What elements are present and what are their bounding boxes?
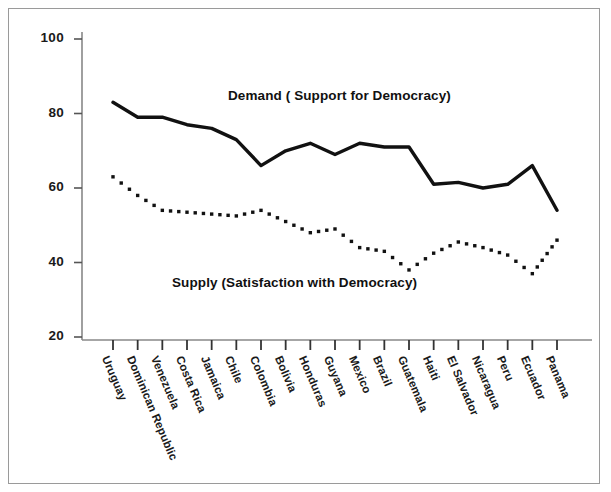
supply-dot (276, 216, 279, 219)
y-tick-label: 100 (18, 30, 64, 45)
axes (74, 32, 592, 350)
supply-dot (555, 238, 558, 241)
supply-dot (210, 212, 213, 215)
supply-dot (185, 211, 188, 214)
supply-dot (342, 233, 345, 236)
supply-dot (407, 268, 410, 271)
supply-dot (226, 214, 229, 217)
supply-dot (440, 248, 443, 251)
supply-dot (284, 220, 287, 223)
supply-dot (514, 260, 517, 263)
supply-dot (169, 209, 172, 212)
supply-dot (152, 204, 155, 207)
supply-dot (128, 188, 131, 191)
supply-dot (457, 240, 460, 243)
supply-dot (218, 213, 221, 216)
supply-dot (194, 211, 197, 214)
supply-dot (120, 181, 123, 184)
supply-dot (424, 257, 427, 260)
supply-dot (161, 209, 164, 212)
supply-dot (498, 251, 501, 254)
x-axis-ticks (113, 340, 557, 350)
demand-series-line (113, 102, 557, 210)
supply-dot (391, 256, 394, 259)
supply-dot (545, 252, 548, 255)
supply-dot (243, 212, 246, 215)
supply-dot (550, 245, 553, 248)
supply-dot (473, 244, 476, 247)
y-tick-label: 20 (18, 328, 64, 343)
supply-dot (111, 175, 114, 178)
y-tick-label: 40 (18, 254, 64, 269)
supply-dot (358, 246, 361, 249)
supply-dot (333, 227, 336, 230)
supply-dot (136, 194, 139, 197)
supply-dot (536, 265, 539, 268)
supply-dot (522, 266, 525, 269)
supply-dot (144, 199, 147, 202)
supply-dot (177, 210, 180, 213)
supply-dot (374, 248, 377, 251)
supply-dot (350, 240, 353, 243)
supply-dot (300, 227, 303, 230)
supply-dot (490, 248, 493, 251)
supply-dot (383, 250, 386, 253)
supply-dot (309, 231, 312, 234)
supply-dot (366, 247, 369, 250)
y-tick-label: 60 (18, 179, 64, 194)
chart-plot-area (0, 0, 611, 492)
chart-figure: 10080604020 UruguayDominican RepublicVen… (0, 0, 611, 492)
y-tick-label: 80 (18, 105, 64, 120)
supply-dot (506, 253, 509, 256)
supply-dot (465, 242, 468, 245)
supply-dot (325, 229, 328, 232)
supply-dot (541, 259, 544, 262)
supply-dot (416, 263, 419, 266)
supply-dot (531, 272, 534, 275)
supply-dot (251, 211, 254, 214)
supply-series-dots (111, 175, 558, 275)
demand-series-label: Demand ( Support for Democracy) (228, 88, 451, 103)
supply-dot (317, 230, 320, 233)
supply-dot (448, 244, 451, 247)
supply-dot (399, 262, 402, 265)
supply-dot (202, 212, 205, 215)
supply-dot (235, 214, 238, 217)
supply-dot (432, 251, 435, 254)
supply-dot (268, 212, 271, 215)
supply-series-label: Supply (Satisfaction with Democracy) (172, 275, 417, 290)
supply-dot (259, 209, 262, 212)
y-axis-ticks (74, 39, 82, 337)
supply-dot (292, 224, 295, 227)
supply-dot (481, 246, 484, 249)
